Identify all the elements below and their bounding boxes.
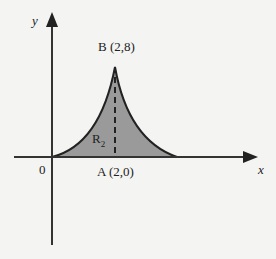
y-axis-label: y [32,14,38,27]
origin-label: 0 [39,163,46,176]
x-axis-label: x [258,163,264,176]
point-b-label: B (2,8) [98,40,135,53]
diagram: y x 0 B (2,8) A (2,0) R2 [0,0,276,259]
diagram-graphics [0,0,276,259]
y-axis-arrow-icon [46,12,58,27]
x-axis-arrow-icon [243,151,258,163]
region-label: R2 [92,132,105,149]
point-a-label: A (2,0) [97,165,134,178]
